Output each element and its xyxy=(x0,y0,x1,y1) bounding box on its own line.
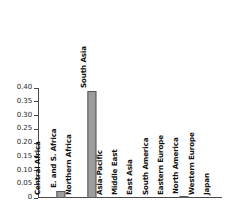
bars-layer: Central AfricaE. and S. AfricaNorthern A… xyxy=(38,0,222,198)
y-axis-tick-label: 0.35 xyxy=(17,96,32,106)
bar-category-label: Western Europe xyxy=(187,132,196,195)
bar-slot[interactable]: Northern Africa xyxy=(69,88,84,198)
bar-category-label: Japan xyxy=(202,173,211,195)
bar-category-label: Northern Africa xyxy=(64,134,73,195)
y-axis-tick-label: 0.05 xyxy=(17,178,32,188)
y-axis-tick-label: 0.40 xyxy=(17,82,32,92)
bar-category-label: E. and S. Africa xyxy=(49,129,58,189)
bar-category-label: Eastern Europe xyxy=(156,135,165,195)
y-axis-tick-label: 0.30 xyxy=(17,110,32,120)
bar-category-label: South Asia xyxy=(79,46,88,88)
bar-category-label: Asia-Pacific xyxy=(95,150,104,195)
bar-chart: 00.050.100.150.200.250.300.350.40 Centra… xyxy=(0,0,251,208)
bar-category-label: Middle East xyxy=(110,149,119,195)
y-axis-tick-label: 0.15 xyxy=(17,151,32,161)
bar[interactable] xyxy=(179,196,188,198)
y-axis-tick-label: 0.20 xyxy=(17,137,32,147)
bar-category-label: East Asia xyxy=(125,159,134,195)
bar-category-label: North America xyxy=(171,137,180,194)
bar-category-label: Central Africa xyxy=(33,141,42,195)
y-axis-tick-label: 0.10 xyxy=(17,165,32,175)
y-axis-tick-label: 0 xyxy=(28,192,32,202)
y-axis-tick-label: 0.25 xyxy=(17,123,32,133)
bar-slot[interactable]: Japan xyxy=(207,88,222,198)
bar-category-label: South America xyxy=(141,138,150,195)
